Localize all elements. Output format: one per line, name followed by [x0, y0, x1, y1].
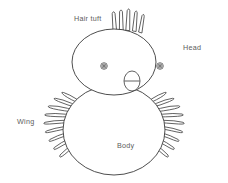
label-wing: Wing: [17, 118, 34, 125]
label-hair-tuft: Hair tuft: [74, 15, 101, 22]
label-head: Head: [183, 44, 201, 51]
eye-right-icon: [157, 63, 164, 70]
beak-icon: [124, 71, 140, 91]
label-body: Body: [117, 142, 134, 149]
head-outline: [72, 29, 156, 95]
bird-illustration: [0, 0, 228, 183]
diagram-canvas: Hair tuft Head Wing Body: [0, 0, 228, 183]
body-outline: [63, 85, 165, 175]
eye-left-icon: [101, 63, 108, 70]
